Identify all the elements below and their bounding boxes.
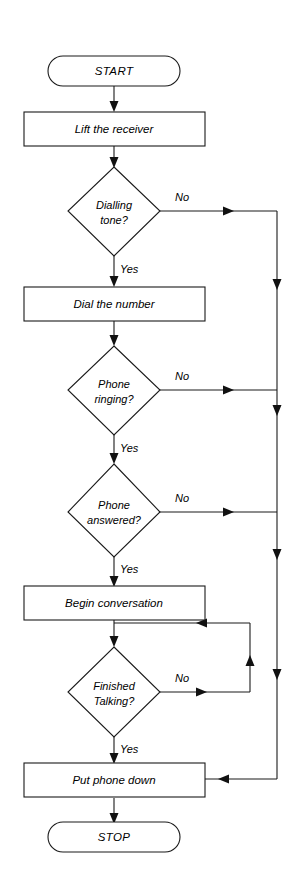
edge-lift-receiver-to-dialling-tone bbox=[110, 146, 119, 168]
edge-phone-ringing-yes bbox=[110, 435, 119, 464]
edge-phone-answered-yes bbox=[110, 557, 119, 587]
node-lift-receiver[interactable]: Lift the receiver bbox=[24, 112, 205, 146]
dial-number-label: Dial the number bbox=[73, 298, 155, 310]
node-phone-ringing[interactable]: Phone ringing? bbox=[68, 346, 160, 435]
edge-label-phone-ringing-yes: Yes bbox=[120, 442, 139, 454]
stop-label: STOP bbox=[98, 831, 131, 843]
put-phone-down-label: Put phone down bbox=[72, 774, 155, 786]
finished-talking-diamond-shape bbox=[68, 647, 160, 737]
phone-answered-label-line1: Phone bbox=[98, 499, 130, 511]
node-put-phone-down[interactable]: Put phone down bbox=[24, 763, 205, 797]
edge-phone-answered-no bbox=[160, 508, 277, 517]
phone-ringing-label-line1: Phone bbox=[98, 378, 130, 390]
node-begin-conversation[interactable]: Begin conversation bbox=[24, 586, 205, 620]
node-dial-number[interactable]: Dial the number bbox=[24, 287, 205, 321]
node-start[interactable]: START bbox=[48, 56, 180, 86]
flowchart-canvas: START Lift the receiver Dialling tone? D… bbox=[0, 0, 299, 888]
node-stop[interactable]: STOP bbox=[48, 822, 180, 852]
edge-dial-number-to-phone-ringing bbox=[110, 321, 119, 346]
edge-finished-talking-yes bbox=[110, 737, 119, 764]
edge-label-phone-answered-yes: Yes bbox=[120, 563, 139, 575]
dialling-tone-label-line2: tone? bbox=[100, 214, 128, 226]
edge-label-phone-answered-no: No bbox=[175, 492, 189, 504]
node-finished-talking[interactable]: Finished Talking? bbox=[68, 647, 160, 737]
edge-label-finished-talking-no: No bbox=[175, 672, 189, 684]
phone-ringing-diamond-shape bbox=[68, 346, 160, 435]
edge-begin-conversation-to-finished-talking bbox=[110, 620, 119, 647]
edge-label-finished-talking-yes: Yes bbox=[120, 743, 139, 755]
node-phone-answered[interactable]: Phone answered? bbox=[68, 464, 160, 557]
edge-phone-ringing-no bbox=[160, 386, 277, 395]
start-label: START bbox=[95, 65, 134, 77]
edge-start-to-lift-receiver bbox=[110, 86, 119, 112]
edge-label-dialling-tone-yes: Yes bbox=[120, 263, 139, 275]
dialling-tone-diamond-shape bbox=[68, 167, 160, 256]
flowchart-svg: START Lift the receiver Dialling tone? D… bbox=[0, 0, 299, 888]
dialling-tone-label-line1: Dialling bbox=[96, 199, 133, 211]
node-dialling-tone[interactable]: Dialling tone? bbox=[68, 167, 160, 256]
edge-label-dialling-tone-no: No bbox=[175, 191, 189, 203]
finished-talking-label-line2: Talking? bbox=[94, 695, 135, 707]
finished-talking-label-line1: Finished bbox=[93, 680, 135, 692]
edge-dialling-tone-no bbox=[160, 207, 277, 216]
edge-put-phone-down-to-stop bbox=[110, 798, 119, 824]
edge-label-phone-ringing-no: No bbox=[175, 370, 189, 382]
phone-answered-label-line2: answered? bbox=[87, 514, 142, 526]
lift-receiver-label: Lift the receiver bbox=[75, 123, 155, 135]
edge-dialling-tone-yes bbox=[110, 256, 119, 287]
phone-ringing-label-line2: ringing? bbox=[94, 393, 134, 405]
begin-conversation-label: Begin conversation bbox=[65, 597, 163, 609]
bypass-rail bbox=[205, 211, 282, 784]
